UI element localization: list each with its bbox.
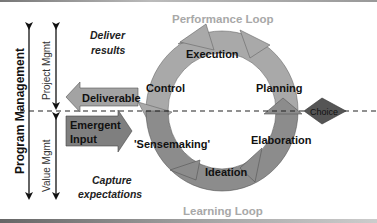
stage-execution: Execution xyxy=(186,48,239,60)
emergent-input-line1: Emergent xyxy=(70,119,121,131)
capture-expectations-line1: Capture xyxy=(92,174,132,186)
stage-elaboration: Elaboration xyxy=(251,134,312,146)
emergent-input-arrow: Emergent Input xyxy=(66,110,132,152)
stage-planning: Planning xyxy=(256,82,302,94)
learning-loop-label: Learning Loop xyxy=(183,205,263,217)
performance-loop-label: Performance Loop xyxy=(172,13,274,25)
choice-label: Choice xyxy=(310,107,338,117)
capture-expectations-line2: expectations xyxy=(78,188,142,200)
deliverable-label: Deliverable xyxy=(82,92,141,104)
deliver-results-line2: results xyxy=(91,44,126,56)
program-management-diagram: Program Management Project Mgmt Value Mg… xyxy=(0,0,377,223)
project-mgmt-label: Project Mgmt xyxy=(41,41,52,100)
deliverable-arrow: Deliverable xyxy=(66,82,141,112)
value-mgmt-label: Value Mgmt xyxy=(41,139,52,192)
emergent-input-line2: Input xyxy=(70,133,97,145)
choice-diamond: Choice xyxy=(304,98,346,124)
stage-control: Control xyxy=(146,82,185,94)
stage-sensemaking: 'Sensemaking' xyxy=(134,138,211,150)
stage-ideation: Ideation xyxy=(205,166,247,178)
deliver-results-line1: Deliver xyxy=(90,29,126,41)
